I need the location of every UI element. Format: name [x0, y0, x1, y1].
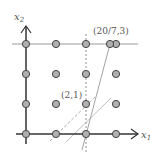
- annotation-2-1: (2,1): [61, 90, 82, 100]
- point-20-7-3: [106, 40, 113, 47]
- x1-axis-label: x1: [141, 129, 151, 142]
- lattice-points: [22, 40, 119, 137]
- integer-lattice-diagram: x2 x1 (20/7,3) (2,1): [0, 0, 161, 159]
- x2-axis-label: x2: [14, 11, 25, 24]
- annotation-20-7-3: (20/7,3): [93, 26, 129, 36]
